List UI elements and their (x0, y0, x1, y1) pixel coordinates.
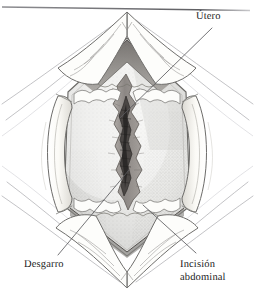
label-incision-line2: abdominal (180, 271, 226, 284)
label-desgarro: Desgarro (24, 259, 64, 271)
label-utero: Útero (196, 11, 221, 23)
illustration-figure: Útero Desgarro Incisiónabdominal (0, 0, 255, 301)
label-incision-line1: Incisión (180, 259, 215, 270)
illustration-canvas (0, 0, 255, 301)
label-incision-abdominal: Incisiónabdominal (180, 258, 226, 284)
